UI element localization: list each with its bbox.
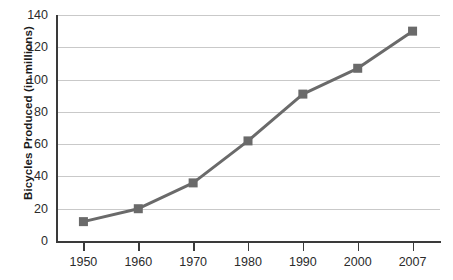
- data-series-layer: [0, 0, 453, 280]
- data-point-marker: [79, 217, 88, 226]
- line-chart: Bicycles Produced (in millions) 02040608…: [0, 0, 453, 280]
- data-point-marker: [189, 178, 198, 187]
- data-point-marker: [134, 204, 143, 213]
- series-markers: [79, 27, 417, 226]
- data-point-marker: [353, 64, 362, 73]
- data-point-marker: [298, 90, 307, 99]
- series-line-bicycles-produced: [83, 31, 412, 221]
- data-point-marker: [408, 27, 417, 36]
- data-point-marker: [244, 136, 253, 145]
